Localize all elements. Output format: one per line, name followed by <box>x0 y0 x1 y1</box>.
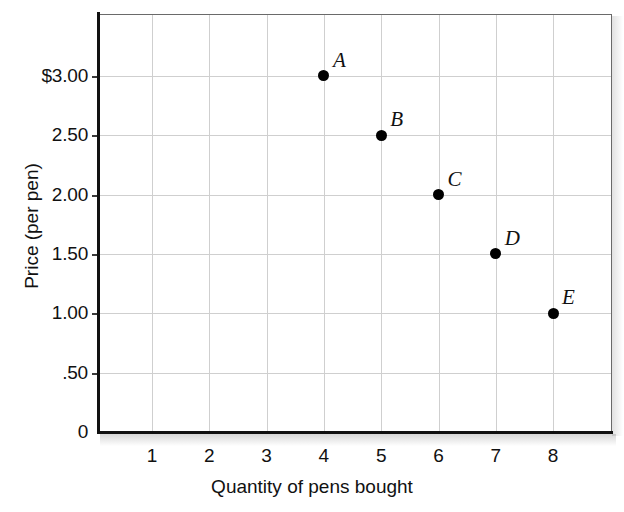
plot-area: ABCDE <box>99 14 612 432</box>
data-point-label: D <box>505 226 520 251</box>
gridline-vertical <box>496 14 497 432</box>
x-axis-tick-label: 1 <box>132 445 172 467</box>
y-axis-tick-label: .50 <box>0 362 88 384</box>
frame-shadow-right <box>612 16 623 436</box>
data-point <box>318 70 329 81</box>
gridline-horizontal <box>99 313 612 314</box>
y-axis-tick-label: 0 <box>0 421 88 443</box>
gridline-horizontal <box>99 76 612 77</box>
data-point-label: B <box>390 107 403 132</box>
data-point-label: C <box>448 167 462 192</box>
gridline-vertical <box>553 14 554 432</box>
y-axis-tick-label: 1.50 <box>0 243 88 265</box>
plot-right-border <box>611 14 612 432</box>
gridline-horizontal <box>99 195 612 196</box>
gridline-vertical <box>267 14 268 432</box>
x-axis-line <box>97 431 613 434</box>
x-axis-tick-label: 5 <box>361 445 401 467</box>
x-axis-tick-label: 3 <box>247 445 287 467</box>
x-axis-title: Quantity of pens bought <box>0 476 624 498</box>
x-axis-tick-label: 7 <box>476 445 516 467</box>
data-point <box>490 248 501 259</box>
gridline-horizontal <box>99 135 612 136</box>
data-point <box>548 308 559 319</box>
y-axis-tick-label: 2.00 <box>0 184 88 206</box>
x-axis-tick-label: 6 <box>419 445 459 467</box>
y-axis-tick-label: 1.00 <box>0 302 88 324</box>
y-axis-title: Price (per pen) <box>21 116 43 336</box>
x-axis-tick-label: 2 <box>189 445 229 467</box>
plot-top-border <box>99 14 612 15</box>
y-axis-tick-label: $3.00 <box>0 65 88 87</box>
data-point <box>376 130 387 141</box>
gridline-horizontal <box>99 373 612 374</box>
gridline-horizontal <box>99 254 612 255</box>
gridline-vertical <box>381 14 382 432</box>
y-axis-tick-label: 2.50 <box>0 124 88 146</box>
demand-schedule-scatter-chart: ABCDE 0.501.001.502.002.50$3.00 12345678… <box>0 0 624 512</box>
gridline-vertical <box>209 14 210 432</box>
data-point <box>433 189 444 200</box>
data-point-label: A <box>333 48 346 73</box>
y-axis-line <box>97 12 100 434</box>
x-axis-tick-label: 4 <box>304 445 344 467</box>
data-point-label: E <box>562 285 575 310</box>
gridline-vertical <box>152 14 153 432</box>
gridline-vertical <box>439 14 440 432</box>
x-axis-tick-label: 8 <box>533 445 573 467</box>
